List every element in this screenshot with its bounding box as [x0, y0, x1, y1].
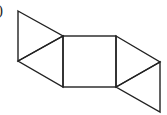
net-diagram	[0, 0, 167, 115]
left-lower-triangle	[18, 36, 63, 87]
right-lower-triangle	[116, 62, 160, 112]
center-square	[63, 36, 116, 87]
right-upper-triangle	[116, 36, 160, 87]
left-upper-triangle	[18, 11, 63, 61]
